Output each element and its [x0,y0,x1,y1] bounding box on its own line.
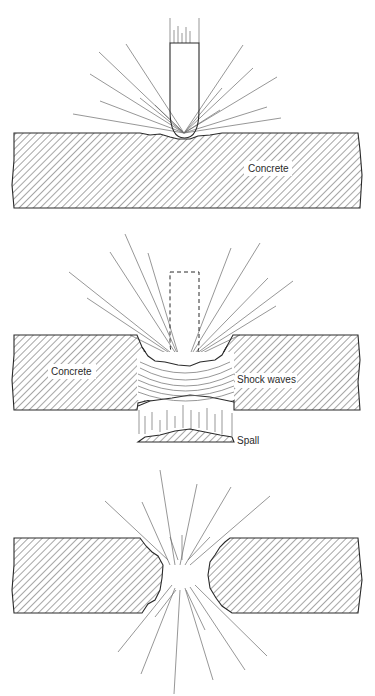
concrete-slab [12,133,362,208]
concrete-slab-left [12,538,163,613]
panel-impact: Concrete [12,18,362,208]
spall-fragment [138,429,234,442]
impact-rays [73,44,281,133]
shock-waves-label: Shock waves [237,374,296,385]
spall-label: Spall [237,435,259,446]
concrete-label: Concrete [248,163,289,174]
concrete-slab-right [208,538,362,613]
panel-shock: Concrete Shock waves Spall [12,234,360,446]
panel-perforation [12,470,362,694]
concrete-label: Concrete [51,366,92,377]
concrete-impact-diagram: Concrete C [0,0,375,696]
projectile-trail-lines [170,18,199,43]
